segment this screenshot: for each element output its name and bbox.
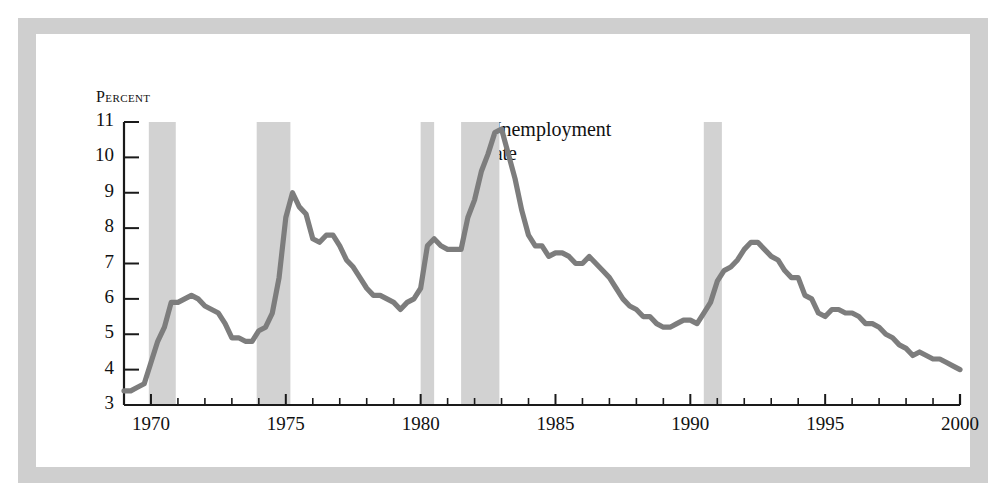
y-tick-label-6: 6 <box>88 286 114 308</box>
x-tick-label-2000: 2000 <box>927 413 993 435</box>
recession-band-recession-1990-1991 <box>704 122 722 405</box>
y-tick-label-3: 3 <box>88 392 114 414</box>
chart-page: Percent Unemployment rate 34567891011 19… <box>0 0 1006 499</box>
y-tick-label-8: 8 <box>88 215 114 237</box>
x-tick-label-1990: 1990 <box>657 413 723 435</box>
x-tick-label-1975: 1975 <box>253 413 319 435</box>
recession-bands-group <box>149 122 722 405</box>
y-tick-label-9: 9 <box>88 180 114 202</box>
axes-group <box>124 122 960 405</box>
recession-band-recession-1973-1975 <box>257 122 291 405</box>
recession-band-recession-1981-1982 <box>461 122 499 405</box>
data-series-group <box>124 129 960 391</box>
y-tick-label-7: 7 <box>88 251 114 273</box>
x-tick-label-1980: 1980 <box>388 413 454 435</box>
series-line-0 <box>124 129 960 391</box>
unemployment-rate-figure: Percent Unemployment rate 34567891011 19… <box>0 0 1006 499</box>
y-tick-label-5: 5 <box>88 321 114 343</box>
x-tick-label-1995: 1995 <box>792 413 858 435</box>
y-tick-label-10: 10 <box>88 144 114 166</box>
y-tick-label-11: 11 <box>88 109 114 131</box>
y-tick-label-4: 4 <box>88 357 114 379</box>
x-tick-label-1970: 1970 <box>118 413 184 435</box>
x-tick-label-1985: 1985 <box>522 413 588 435</box>
